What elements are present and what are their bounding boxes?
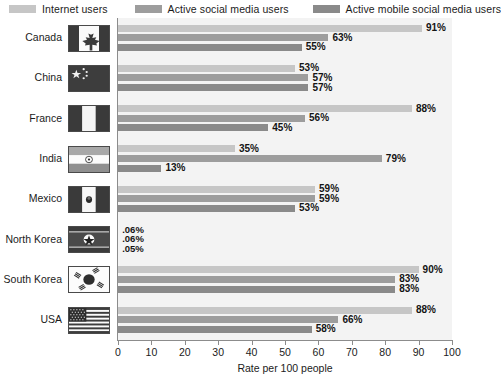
y-axis-category-label: India	[0, 152, 62, 164]
bar-usa-series-3	[118, 326, 312, 333]
x-axis-tick-label: 50	[279, 346, 291, 358]
x-axis-tick-label: 60	[313, 346, 325, 358]
x-axis-tick-label: 0	[115, 346, 121, 358]
bar-china-series-2	[118, 74, 308, 81]
bar-value-label: 13%	[165, 163, 185, 173]
bar-value-label: 53%	[299, 203, 319, 213]
flag-north-korea-icon	[68, 226, 110, 253]
bar-mexico-series-2	[118, 195, 315, 202]
flag-china-icon	[68, 65, 110, 92]
bar-value-label: 55%	[306, 42, 326, 52]
bar-south-korea-series-2	[118, 276, 395, 283]
bar-china-series-1	[118, 65, 295, 72]
x-axis-tick	[118, 341, 119, 345]
legend-label-internet-users: Internet users	[42, 3, 108, 15]
bar-value-label: 88%	[416, 305, 436, 315]
y-axis-category-label: France	[0, 112, 62, 124]
bar-usa-series-1	[118, 307, 412, 314]
x-axis-tick	[252, 341, 253, 345]
bar-value-label: 59%	[319, 194, 339, 204]
bar-india-series-3	[118, 165, 161, 172]
y-axis-category-label: Canada	[0, 31, 62, 43]
bar-china-series-3	[118, 84, 308, 91]
y-axis-category-label: China	[0, 71, 62, 83]
x-axis-tick-label: 100	[443, 346, 461, 358]
legend-item-active-mobile-social-media-users: Active mobile social media users	[313, 3, 501, 15]
flag-south-korea-icon	[68, 266, 110, 293]
bar-value-label: 79%	[386, 154, 406, 164]
bar-south-korea-series-1	[118, 266, 419, 273]
legend-label-active-social-media-users: Active social media users	[168, 3, 289, 15]
bar-value-label: 45%	[272, 123, 292, 133]
x-axis-tick-label: 30	[212, 346, 224, 358]
x-axis-tick	[352, 341, 353, 345]
x-axis-tick-label: 70	[346, 346, 358, 358]
bar-value-label: 88%	[416, 104, 436, 114]
flag-india-icon	[68, 146, 110, 173]
flag-mexico-icon	[68, 186, 110, 213]
x-axis-tick-label: 40	[246, 346, 258, 358]
legend-label-active-mobile-social-media-users: Active mobile social media users	[346, 3, 501, 15]
bar-value-label: 83%	[399, 284, 419, 294]
bar-france-series-3	[118, 124, 268, 131]
bar-value-label: 90%	[423, 265, 443, 275]
bar-canada-series-1	[118, 25, 422, 32]
bar-value-label: 35%	[239, 144, 259, 154]
x-axis-tick	[185, 341, 186, 345]
bar-south-korea-series-3	[118, 286, 395, 293]
x-axis-tick-label: 80	[379, 346, 391, 358]
x-axis-title: Rate per 100 people	[118, 362, 452, 374]
bar-france-series-1	[118, 105, 412, 112]
legend-item-internet-users: Internet users	[9, 3, 108, 15]
flag-france-icon	[68, 105, 110, 132]
bar-value-label: 91%	[426, 23, 446, 33]
bar-india-series-2	[118, 155, 382, 162]
legend-swatch-active-mobile-social-media-users	[313, 5, 340, 13]
x-axis-tick	[452, 341, 453, 345]
chart-legend: Internet users Active social media users…	[0, 0, 467, 17]
x-axis-tick-label: 20	[179, 346, 191, 358]
y-axis-category-label: USA	[0, 313, 62, 325]
x-axis-tick	[385, 341, 386, 345]
bar-canada-series-2	[118, 34, 328, 41]
x-axis-tick-label: 10	[146, 346, 158, 358]
bar-india-series-1	[118, 145, 235, 152]
x-axis-tick	[419, 341, 420, 345]
y-axis-category-label: North Korea	[0, 233, 62, 245]
x-axis-tick-label: 90	[413, 346, 425, 358]
legend-swatch-internet-users	[9, 5, 36, 13]
bar-value-label: 56%	[309, 113, 329, 123]
legend-item-active-social-media-users: Active social media users	[135, 3, 289, 15]
bar-mexico-series-3	[118, 205, 295, 212]
flag-canada-icon	[68, 25, 110, 52]
x-axis-tick	[318, 341, 319, 345]
y-axis-category-label: Mexico	[0, 192, 62, 204]
x-axis-tick	[285, 341, 286, 345]
bar-value-label: 63%	[332, 33, 352, 43]
bar-value-label: .05%	[122, 244, 144, 254]
x-axis-tick	[151, 341, 152, 345]
bar-canada-series-3	[118, 44, 302, 51]
x-axis-tick	[218, 341, 219, 345]
bar-mexico-series-1	[118, 186, 315, 193]
legend-swatch-active-social-media-users	[135, 5, 162, 13]
y-axis-category-label: South Korea	[0, 273, 62, 285]
bar-usa-series-2	[118, 316, 338, 323]
bar-france-series-2	[118, 115, 305, 122]
bar-value-label: 58%	[316, 324, 336, 334]
bar-value-label: 66%	[342, 315, 362, 325]
bar-value-label: 57%	[312, 83, 332, 93]
flag-usa-icon	[68, 307, 110, 334]
